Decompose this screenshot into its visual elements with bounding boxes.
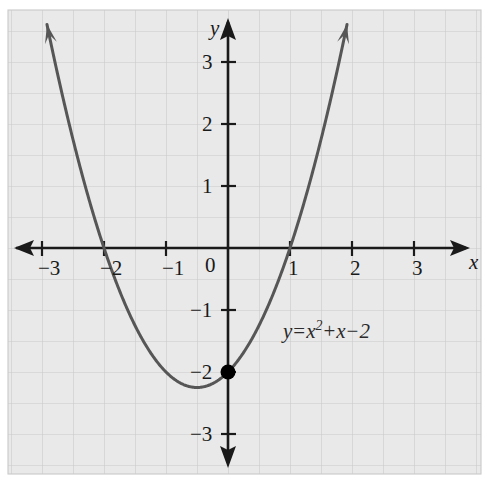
y-tick-label-neg2: −2 — [190, 362, 212, 383]
equation-constant: 2 — [359, 319, 370, 343]
x-tick-label-1: 1 — [288, 258, 299, 279]
x-axis-label: x — [469, 252, 478, 273]
x-tick-label-neg1: −1 — [162, 258, 184, 279]
y-axis-label: y — [210, 18, 219, 39]
x-tick-label-neg2: −2 — [100, 258, 122, 279]
x-tick-label-neg3: −3 — [38, 258, 60, 279]
equation-annotation: y=x2+x−2 — [283, 321, 370, 342]
equation-var1: x — [306, 319, 315, 343]
y-tick-label-3: 3 — [202, 52, 213, 73]
x-tick-label-3: 3 — [412, 258, 423, 279]
y-tick-label-neg3: −3 — [190, 424, 212, 445]
y-intercept-point — [221, 365, 236, 380]
equation-minus: − — [346, 319, 360, 343]
y-tick-label-neg1: −1 — [190, 300, 212, 321]
equation-plus: + — [322, 319, 336, 343]
x-tick-label-2: 2 — [350, 258, 361, 279]
graph-figure: −3 −2 −1 0 1 2 3 3 2 1 −1 −2 −3 y x y=x2… — [0, 0, 489, 482]
graph-layer — [0, 0, 489, 482]
equation-var2: x — [336, 319, 345, 343]
y-tick-label-2: 2 — [202, 114, 213, 135]
equation-equals: = — [292, 319, 306, 343]
y-tick-label-1: 1 — [202, 176, 213, 197]
equation-lhs: y — [283, 319, 292, 343]
origin-label: 0 — [205, 255, 216, 276]
